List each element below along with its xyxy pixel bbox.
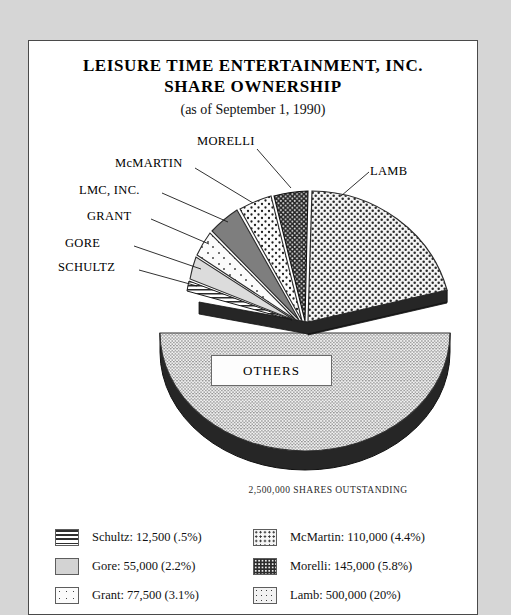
legend-swatch-schultz [55,529,79,546]
legend-item-gore[interactable]: Gore: 55,000 (2.2%) [55,552,202,581]
shares-outstanding-text: 2,500,000 SHARES OUTSTANDING [248,485,407,495]
pie-label-others: OTHERS [211,355,332,386]
legend-swatch-grant [55,587,79,604]
legend-item-morelli[interactable]: Morelli: 145,000 (5.8%) [253,552,425,581]
legend-swatch-lamb [253,587,277,604]
legend-label-morelli: Morelli: 145,000 (5.8%) [290,559,412,574]
shares-outstanding-note: 2,500,000 SHARES OUTSTANDING [29,485,477,495]
legend-label-gore: Gore: 55,000 (2.2%) [92,559,195,574]
pie-label-gore: GORE [65,236,100,251]
pie-label-mcmartin: McMARTIN [115,156,183,171]
legend-item-grant[interactable]: Grant: 77,500 (3.1%) [55,581,202,610]
document-page: LEISURE TIME ENTERTAINMENT, INC. SHARE O… [28,40,478,615]
pie-slice-others[interactable] [160,333,450,470]
legend-swatch-morelli [253,558,277,575]
legend-swatch-mcmartin [253,529,277,546]
legend-item-mcmartin[interactable]: McMartin: 110,000 (4.4%) [253,523,425,552]
legend-item-schultz[interactable]: Schultz: 12,500 (.5%) [55,523,202,552]
legend-label-schultz: Schultz: 12,500 (.5%) [92,530,202,545]
legend-label-mcmartin: McMartin: 110,000 (4.4%) [290,530,425,545]
legend-label-lamb: Lamb: 500,000 (20%) [290,588,401,603]
pie-label-morelli: MORELLI [197,134,255,149]
legend-item-lamb[interactable]: Lamb: 500,000 (20%) [253,581,425,610]
legend-column-left: Schultz: 12,500 (.5%) Gore: 55,000 (2.2%… [55,523,202,610]
pie-label-lmc: LMC, INC. [79,183,140,198]
legend-swatch-gore [55,558,79,575]
pie-chart-svg [29,41,478,521]
legend-column-right: McMartin: 110,000 (4.4%) Morelli: 145,00… [253,523,425,610]
legend-label-grant: Grant: 77,500 (3.1%) [92,588,199,603]
pie-label-lamb: LAMB [370,164,407,179]
pie-label-grant: GRANT [87,209,132,224]
pie-label-schultz: SCHULTZ [58,260,115,275]
